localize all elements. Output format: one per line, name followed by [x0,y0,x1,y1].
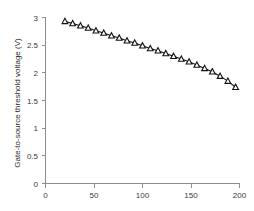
data-point-marker [217,73,223,78]
x-tick-group [46,184,240,188]
data-point-marker [147,45,153,50]
data-point-marker [93,28,99,33]
data-point-marker [85,25,91,30]
data-point-marker [233,84,239,89]
y-tick-label: 3 [34,14,39,23]
data-point-marker [124,38,130,43]
x-tick-label: 200 [233,191,247,200]
x-tick-label: 100 [136,191,150,200]
data-point-marker [70,20,76,25]
y-tick-label: 2 [34,69,39,78]
data-point-marker [155,48,161,53]
data-point-marker [116,35,122,40]
x-tick-label: 50 [90,191,99,200]
line-chart: Gate-to-source threshold voltage (V) 0 0… [0,0,254,211]
data-point-marker [163,50,169,55]
x-axis: 0 50 100 150 200 [43,184,246,201]
series-markers [62,18,238,89]
y-tick-labels: 0 0.5 1 1.5 2 2.5 3 [27,14,39,189]
data-point-marker [194,62,200,67]
y-tick-group [42,18,46,184]
data-point-marker [171,53,177,58]
data-point-marker [186,59,192,64]
data-point-marker [109,33,115,38]
y-tick-label: 2.5 [27,41,39,50]
data-point-marker [101,30,107,35]
y-axis: 0 0.5 1 1.5 2 2.5 3 [27,14,46,189]
x-tick-label: 150 [184,191,198,200]
y-tick-label: 1 [34,124,39,133]
data-series-layer [62,18,238,89]
y-tick-label: 1.5 [27,97,39,106]
x-tick-label: 0 [43,191,48,200]
y-axis-title: Gate-to-source threshold voltage (V) [13,38,22,168]
data-point-marker [178,56,184,61]
chart-figure: Gate-to-source threshold voltage (V) 0 0… [0,0,254,211]
y-tick-label: 0 [34,180,39,189]
y-tick-label: 0.5 [27,152,39,161]
data-point-marker [202,65,208,70]
data-point-marker [132,40,138,45]
series-line [65,21,236,87]
y-axis-title-group: Gate-to-source threshold voltage (V) [13,38,22,168]
data-point-marker [78,23,84,28]
data-point-marker [225,78,231,83]
data-point-marker [62,18,68,23]
data-point-marker [140,43,146,48]
data-point-marker [209,69,215,74]
x-tick-labels: 0 50 100 150 200 [43,191,246,200]
